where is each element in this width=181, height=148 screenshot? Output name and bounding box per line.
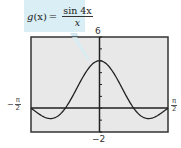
- x-min-label: − π 2: [7, 97, 21, 112]
- formula-label: g (x) = sin 4x x: [27, 3, 93, 29]
- formula-fraction: sin 4x x: [62, 5, 92, 28]
- function-argument: (x): [33, 11, 46, 22]
- formula-numerator: sin 4x: [62, 5, 92, 17]
- x-min-sign: −: [7, 100, 14, 109]
- x-min-fraction: π 2: [15, 97, 21, 112]
- equals-sign: =: [49, 11, 57, 22]
- y-min-label: −2: [92, 134, 105, 144]
- x-min-denominator: 2: [16, 105, 20, 112]
- x-max-label: π 2: [171, 98, 177, 113]
- y-max-label: 6: [95, 26, 101, 36]
- x-max-denominator: 2: [172, 106, 176, 113]
- formula-denominator: x: [75, 17, 80, 28]
